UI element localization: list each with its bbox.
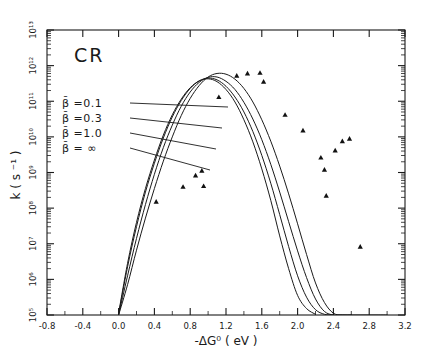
x-tick-label: 0.0 <box>112 321 126 331</box>
legend-label-3: β̄ = ∞ <box>62 141 97 154</box>
x-tick-label: 3.2 <box>398 321 412 331</box>
y-tick-label: 10¹³ <box>28 21 38 39</box>
x-tick-label: -0.4 <box>75 321 92 331</box>
x-tick-label: 0.8 <box>183 321 197 331</box>
figure-background <box>0 0 421 357</box>
plot-title: CR <box>74 44 104 66</box>
x-tick-label: 2.4 <box>327 321 341 331</box>
legend-label-2: β̄ =1.0 <box>62 126 102 139</box>
x-tick-label: 1.6 <box>255 321 269 331</box>
y-axis-tick-labels: 10⁵10⁶10⁷10⁸10⁹10¹⁰10¹¹10¹²10¹³ <box>28 21 38 322</box>
legend-label-1: β̄ =0.3 <box>62 111 102 124</box>
y-tick-label: 10⁹ <box>28 165 38 180</box>
x-tick-label: -0.8 <box>39 321 56 331</box>
y-tick-label: 10¹¹ <box>28 92 38 110</box>
x-axis-label: -ΔG⁰ ( eV ) <box>194 334 257 348</box>
legend-label-0: β̄ =0.1 <box>62 96 102 109</box>
y-tick-label: 10⁵ <box>28 308 38 322</box>
y-axis-label: k ( s ⁻¹ ) <box>9 151 23 200</box>
x-tick-label: 1.2 <box>219 321 233 331</box>
scientific-plot: 10⁵10⁶10⁷10⁸10⁹10¹⁰10¹¹10¹²10¹³ -0.8-0.4… <box>0 0 421 357</box>
y-tick-label: 10⁶ <box>28 272 38 287</box>
y-tick-label: 10⁷ <box>28 236 38 251</box>
figure-root: 10⁵10⁶10⁷10⁸10⁹10¹⁰10¹¹10¹²10¹³ -0.8-0.4… <box>0 0 421 357</box>
y-tick-label: 10⁸ <box>28 200 38 215</box>
y-tick-label: 10¹² <box>28 57 38 75</box>
x-tick-label: 2.0 <box>291 321 305 331</box>
y-tick-label: 10¹⁰ <box>28 127 38 145</box>
x-tick-label: 2.8 <box>362 321 376 331</box>
x-tick-label: 0.4 <box>148 321 162 331</box>
